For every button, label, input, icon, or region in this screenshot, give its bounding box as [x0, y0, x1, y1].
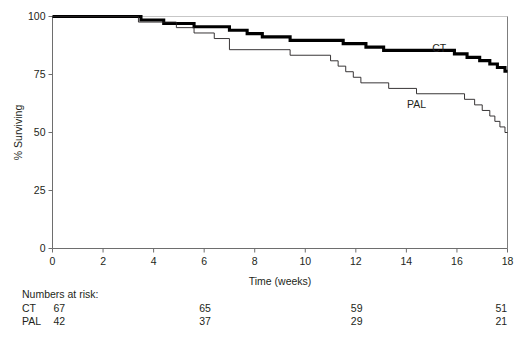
series-annotation-ct: CT	[432, 42, 447, 54]
y-axis-title: % Surviving	[12, 105, 24, 161]
y-axis-tick-label: 50	[34, 126, 46, 138]
x-axis-tick-label: 4	[151, 255, 157, 267]
table-row: PAL 42372921	[0, 315, 531, 328]
table-row: CT 67655951	[0, 302, 531, 315]
x-axis-tick-label: 6	[201, 255, 207, 267]
y-axis-tick-label: 25	[34, 184, 46, 196]
series-line-pal	[53, 17, 508, 133]
x-axis-tick-label: 18	[502, 255, 514, 267]
y-axis-tick-label: 0	[40, 242, 46, 254]
survival-curve-figure: 0255075100024681012141618Time (weeks)% S…	[0, 0, 531, 346]
risk-row-label-pal: PAL	[22, 315, 41, 328]
risk-count-cell: 37	[199, 315, 211, 328]
x-axis-title: Time (weeks)	[249, 275, 312, 287]
y-axis-tick-label: 100	[28, 10, 46, 22]
x-axis-tick-label: 12	[350, 255, 362, 267]
kaplan-meier-chart: 0255075100024681012141618Time (weeks)% S…	[0, 0, 531, 290]
risk-count-cell: 42	[54, 315, 66, 328]
risk-count-cell: 67	[54, 302, 66, 315]
x-axis-tick-label: 2	[100, 255, 106, 267]
x-axis-tick-label: 0	[50, 255, 56, 267]
risk-count-cell: 59	[351, 302, 363, 315]
y-axis-tick-label: 75	[34, 68, 46, 80]
x-axis-tick-label: 14	[401, 255, 413, 267]
risk-count-cell: 65	[199, 302, 211, 315]
chart-plot-area: 0255075100024681012141618Time (weeks)% S…	[0, 0, 531, 290]
risk-count-cell: 21	[496, 315, 508, 328]
risk-count-cell: 29	[351, 315, 363, 328]
x-axis-tick-label: 8	[252, 255, 258, 267]
numbers-at-risk-table: Numbers at risk: CT 67655951 PAL 4237292…	[0, 288, 531, 346]
x-axis-tick-label: 16	[451, 255, 463, 267]
risk-count-cell: 51	[496, 302, 508, 315]
risk-row-label-ct: CT	[22, 302, 36, 315]
x-axis-tick-label: 10	[299, 255, 311, 267]
numbers-at-risk-title: Numbers at risk:	[22, 288, 98, 301]
series-annotation-pal: PAL	[407, 98, 426, 110]
